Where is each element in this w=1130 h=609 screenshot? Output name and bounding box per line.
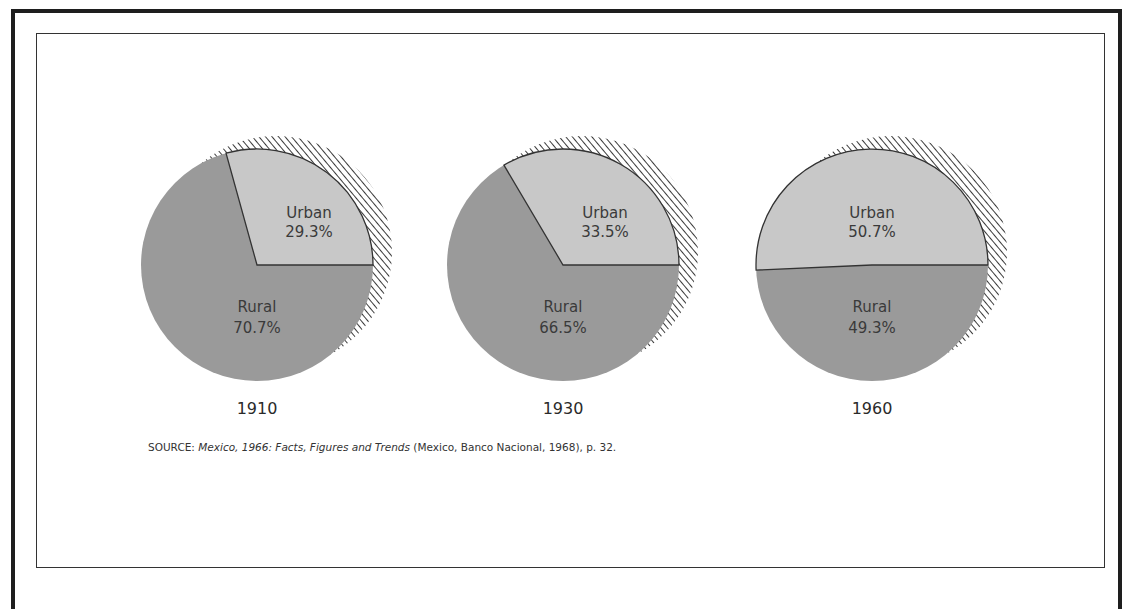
pie-1910: Urban 29.3% Rural 70.7% 1910 [141,136,392,418]
year-label: 1930 [543,399,584,418]
pie-1960: Urban 50.7% Rural 49.3% 1960 [756,136,1007,418]
source-title: Mexico, 1966: Facts, Figures and Trends [198,441,410,453]
source-suffix: (Mexico, Banco Nacional, 1968), p. 32. [410,441,616,453]
rural-value: 49.3% [848,319,896,337]
rural-label: Rural [853,298,892,316]
rural-value: 70.7% [233,319,281,337]
year-label: 1960 [852,399,893,418]
urban-label: Urban [286,204,331,222]
rural-label: Rural [544,298,583,316]
year-label: 1910 [237,399,278,418]
urban-value: 29.3% [285,223,333,241]
urban-value: 33.5% [581,223,629,241]
urban-label: Urban [849,204,894,222]
source-note: SOURCE: Mexico, 1966: Facts, Figures and… [148,441,616,453]
rural-value: 66.5% [539,319,587,337]
urban-value: 50.7% [848,223,896,241]
source-prefix: SOURCE: [148,441,198,453]
urban-label: Urban [582,204,627,222]
rural-label: Rural [238,298,277,316]
pie-1930: Urban 33.5% Rural 66.5% 1930 [447,136,698,418]
